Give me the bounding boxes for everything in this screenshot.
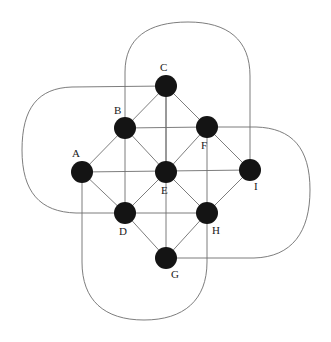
node-E[interactable]: [155, 161, 177, 183]
node-H[interactable]: [196, 202, 218, 224]
node-label-A: A: [72, 147, 80, 159]
node-label-H: H: [212, 224, 220, 236]
node-label-C: C: [160, 61, 167, 73]
wrap-edge-right-F-G: [166, 127, 310, 258]
node-label-B: B: [114, 104, 121, 116]
node-label-I: I: [254, 180, 258, 192]
node-F[interactable]: [196, 116, 218, 138]
node-label-D: D: [119, 225, 127, 237]
node-label-E: E: [161, 184, 168, 196]
graph-figure: A B C D E F G H I: [0, 0, 331, 342]
torus-grid-graph: A B C D E F G H I: [0, 0, 331, 342]
node-D[interactable]: [114, 202, 136, 224]
node-G[interactable]: [155, 247, 177, 269]
node-B[interactable]: [114, 117, 136, 139]
node-C[interactable]: [155, 75, 177, 97]
node-label-F: F: [201, 139, 207, 151]
node-I[interactable]: [239, 159, 261, 181]
node-label-G: G: [171, 268, 179, 280]
node-A[interactable]: [71, 161, 93, 183]
